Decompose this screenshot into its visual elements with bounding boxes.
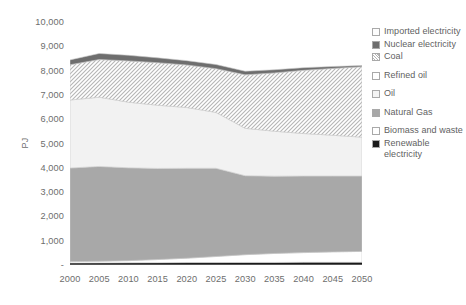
legend-label: Natural Gas bbox=[384, 107, 433, 119]
legend-swatch-natural-gas-icon bbox=[372, 109, 380, 117]
x-axis-tick-2000: 2000 bbox=[60, 274, 81, 284]
plot-area bbox=[70, 22, 362, 265]
y-axis-tick-8000: 8,000 bbox=[8, 66, 64, 76]
legend-item-natural-gas[interactable]: Natural Gas bbox=[372, 107, 466, 119]
legend-label: Refined oil bbox=[384, 70, 427, 82]
y-axis-tick-2000: 2,000 bbox=[8, 211, 64, 221]
legend-item-oil[interactable]: Oil bbox=[372, 88, 466, 100]
x-axis-tick-2015: 2015 bbox=[147, 274, 168, 284]
x-axis-tick-2030: 2030 bbox=[235, 274, 256, 284]
x-axis-tick-2050: 2050 bbox=[352, 274, 373, 284]
legend-item-coal[interactable]: Coal bbox=[372, 51, 466, 63]
legend-swatch-renewable-electricity-icon bbox=[372, 140, 380, 148]
y-axis-tick-4000: 4,000 bbox=[8, 163, 64, 173]
x-axis-tick-2025: 2025 bbox=[206, 274, 227, 284]
legend-swatch-nuclear-electricity-icon bbox=[372, 41, 380, 49]
y-axis-tick-0: - bbox=[8, 260, 64, 270]
y-axis-tick-6000: 6,000 bbox=[8, 114, 64, 124]
legend-item-nuclear-electricity[interactable]: Nuclear electricity bbox=[372, 39, 466, 51]
legend-swatch-refined-oil-icon bbox=[372, 72, 380, 80]
x-axis-tick-2040: 2040 bbox=[293, 274, 314, 284]
y-axis-tick-9000: 9,000 bbox=[8, 41, 64, 51]
x-axis-tick-2010: 2010 bbox=[118, 274, 139, 284]
stacked-area-chart: PJ -1,0002,0003,0004,0005,0006,0007,0008… bbox=[0, 0, 466, 305]
legend-item-biomass-and-waste[interactable]: Biomass and waste bbox=[372, 125, 466, 137]
chart-legend: Imported electricityNuclear electricityC… bbox=[372, 26, 466, 162]
legend-swatch-biomass-and-waste-icon bbox=[372, 127, 380, 135]
legend-swatch-imported-electricity-icon bbox=[372, 28, 380, 36]
y-axis-tick-5000: 5,000 bbox=[8, 139, 64, 149]
x-axis-tick-2005: 2005 bbox=[89, 274, 110, 284]
y-axis-tick-labels: -1,0002,0003,0004,0005,0006,0007,0008,00… bbox=[4, 0, 64, 305]
legend-swatch-coal-icon bbox=[372, 53, 380, 61]
y-axis-tick-7000: 7,000 bbox=[8, 90, 64, 100]
legend-swatch-oil-icon bbox=[372, 90, 380, 98]
x-axis-tick-2035: 2035 bbox=[264, 274, 285, 284]
legend-label: Biomass and waste bbox=[384, 125, 463, 137]
area-series-natural-gas bbox=[70, 166, 362, 261]
x-axis-tick-labels: 2000200520102015202020252030203520402045… bbox=[70, 274, 362, 290]
legend-item-renewable-electricity[interactable]: Renewable electricity bbox=[372, 138, 466, 161]
y-axis-tick-1000: 1,000 bbox=[8, 236, 64, 246]
legend-label: Oil bbox=[384, 88, 395, 100]
y-axis-tick-10000: 10,000 bbox=[8, 17, 64, 27]
y-axis-tick-3000: 3,000 bbox=[8, 187, 64, 197]
legend-label: Renewable electricity bbox=[384, 138, 466, 161]
x-axis-tick-2045: 2045 bbox=[322, 274, 343, 284]
legend-item-imported-electricity[interactable]: Imported electricity bbox=[372, 26, 466, 38]
legend-label: Coal bbox=[384, 51, 403, 63]
x-axis-tick-2020: 2020 bbox=[176, 274, 197, 284]
legend-label: Imported electricity bbox=[384, 26, 461, 38]
legend-item-refined-oil[interactable]: Refined oil bbox=[372, 70, 466, 82]
legend-label: Nuclear electricity bbox=[384, 39, 456, 51]
